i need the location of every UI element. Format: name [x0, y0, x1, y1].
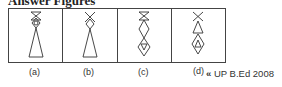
label-b: (b) [83, 67, 94, 77]
figure-c[interactable] [118, 9, 172, 62]
label-d: (d) [193, 66, 204, 76]
figure-d-shape-icon [187, 11, 209, 61]
figure-a-shape-icon [25, 11, 47, 61]
answer-figures-frame [8, 8, 226, 63]
source-mark-icon: « [206, 68, 211, 79]
figure-d[interactable] [172, 9, 225, 62]
label-c: (c) [138, 67, 149, 77]
figure-b[interactable] [63, 9, 117, 62]
figure-c-shape-icon [133, 11, 155, 61]
source-text: UP B.Ed 2008 [214, 68, 274, 79]
figure-b-shape-icon [79, 11, 101, 61]
figure-a[interactable] [9, 9, 63, 62]
source-citation: « UP B.Ed 2008 [206, 68, 274, 79]
label-a: (a) [29, 67, 40, 77]
